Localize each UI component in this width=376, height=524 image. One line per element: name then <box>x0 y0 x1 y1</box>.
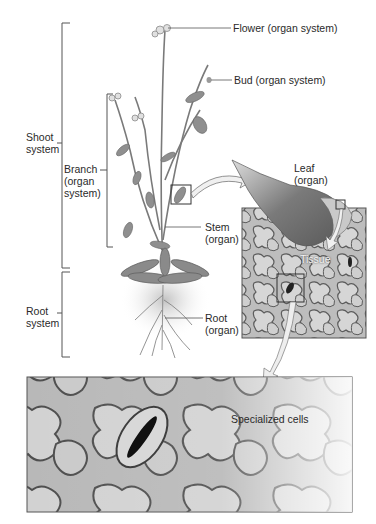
label-shoot-line2: system <box>26 143 59 155</box>
label-root-system: Root system <box>26 305 59 329</box>
label-stem-line1: Stem <box>205 221 239 233</box>
label-root-line2: system <box>26 317 59 329</box>
label-root-line1: Root <box>26 305 59 317</box>
label-tissue: Tissue <box>300 253 331 265</box>
label-branch-line3: system) <box>64 187 101 199</box>
branch-bracket <box>100 94 113 247</box>
specialized-cells-panel <box>27 377 352 512</box>
label-root-organ: Root (organ) <box>205 312 239 336</box>
label-branch-line2: (organ <box>64 175 101 187</box>
label-stem: Stem (organ) <box>205 221 239 245</box>
label-bud: Bud (organ system) <box>234 74 326 86</box>
label-shoot-line1: Shoot <box>26 131 59 143</box>
label-branch-line1: Branch <box>64 163 101 175</box>
label-stem-line2: (organ) <box>205 233 239 245</box>
label-specialized-cells: Specialized cells <box>231 413 309 425</box>
label-root-organ-line2: (organ) <box>205 324 239 336</box>
label-leaf-line1: Leaf <box>294 162 328 174</box>
label-flower: Flower (organ system) <box>233 22 337 34</box>
label-shoot-system: Shoot system <box>26 131 59 155</box>
label-branch: Branch (organ system) <box>64 163 101 199</box>
label-leaf: Leaf (organ) <box>294 162 328 186</box>
label-leaf-line2: (organ) <box>294 174 328 186</box>
label-root-organ-line1: Root <box>205 312 239 324</box>
